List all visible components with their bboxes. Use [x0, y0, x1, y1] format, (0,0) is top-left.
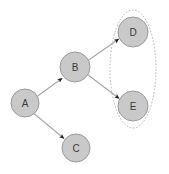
node-d[interactable]: D — [118, 17, 148, 47]
node-d-label: D — [129, 27, 136, 38]
graph-diagram-canvas: A B C D E — [0, 0, 169, 174]
node-a[interactable]: A — [11, 89, 39, 117]
node-b[interactable]: B — [60, 52, 90, 82]
node-c-label: C — [72, 143, 79, 154]
edge-a-to-c — [34, 114, 64, 139]
node-e[interactable]: E — [118, 91, 148, 121]
node-a-label: A — [22, 98, 29, 109]
graph-svg: A B C D E — [0, 0, 169, 174]
node-c[interactable]: C — [62, 134, 90, 162]
edge-a-to-b — [37, 78, 62, 96]
node-b-label: B — [72, 62, 79, 73]
edge-b-to-e — [88, 75, 120, 99]
edge-b-to-d — [88, 39, 119, 61]
node-e-label: E — [130, 101, 137, 112]
